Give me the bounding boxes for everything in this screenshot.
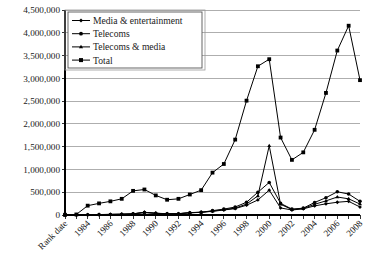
chart-container: 0500,0001,000,0001,500,0002,000,0002,500… [0, 0, 373, 264]
legend-label: Media & entertainment [93, 15, 183, 26]
data-point-marker [74, 213, 78, 217]
data-point-marker [301, 150, 305, 154]
data-point-marker [143, 188, 147, 192]
y-axis-tick-label: 4,000,000 [23, 28, 60, 38]
y-axis-tick-label: 3,000,000 [23, 74, 60, 84]
data-point-marker [63, 213, 67, 217]
data-point-marker [279, 136, 283, 140]
data-point-marker [347, 192, 351, 196]
y-axis-tick-label: 500,000 [30, 187, 60, 197]
data-point-marker [79, 58, 83, 62]
data-point-marker [267, 181, 271, 185]
y-axis-tick-label: 0 [55, 210, 60, 220]
data-point-marker [79, 32, 83, 36]
data-point-marker [188, 193, 192, 197]
data-point-marker [245, 99, 249, 103]
data-point-marker [199, 188, 203, 192]
data-point-marker [120, 197, 124, 201]
data-point-marker [335, 49, 339, 53]
data-point-marker [211, 171, 215, 175]
data-point-marker [154, 194, 158, 198]
data-point-marker [131, 189, 135, 193]
data-point-marker [290, 158, 294, 162]
chart-legend[interactable]: Media & entertainmentTelecomsTelecoms & … [65, 10, 205, 70]
data-point-marker [336, 190, 340, 194]
y-axis-tick-label: 2,500,000 [23, 96, 60, 106]
data-point-marker [177, 197, 181, 201]
y-axis-tick-label: 4,500,000 [23, 5, 60, 15]
data-point-marker [222, 162, 226, 166]
data-point-marker [358, 78, 362, 82]
data-point-marker [97, 201, 101, 205]
data-point-marker [324, 91, 328, 95]
y-axis-tick-label: 1,500,000 [23, 142, 60, 152]
y-axis-tick-label: 1,000,000 [23, 165, 60, 175]
data-point-marker [165, 198, 169, 202]
line-chart: 0500,0001,000,0001,500,0002,000,0002,500… [0, 0, 373, 264]
data-point-marker [267, 57, 271, 61]
data-point-marker [233, 138, 237, 142]
data-point-marker [313, 128, 317, 132]
data-point-marker [108, 199, 112, 203]
y-axis-tick-label: 3,500,000 [23, 51, 60, 61]
y-axis-tick-label: 2,000,000 [23, 119, 60, 129]
legend-label: Telecoms & media [93, 41, 166, 52]
data-point-marker [86, 204, 90, 208]
data-point-marker [256, 64, 260, 68]
legend-label: Telecoms [93, 28, 130, 39]
legend-label: Total [93, 55, 113, 66]
data-point-marker [347, 24, 351, 28]
